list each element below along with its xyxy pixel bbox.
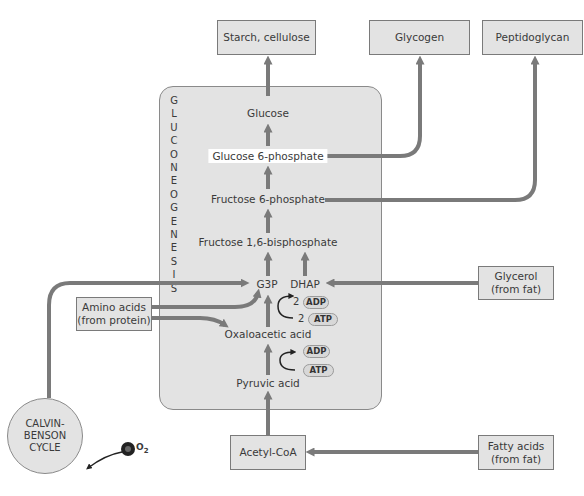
acetyl-coa-label: Acetyl-CoA (239, 446, 296, 459)
arrow-layer (0, 0, 584, 496)
peptidoglycan-label: Peptidoglycan (496, 31, 570, 44)
co2-molecule-icon (121, 442, 135, 456)
fatty-acids-label: Fatty acids (488, 440, 545, 453)
glucose-label: Glucose (247, 107, 289, 119)
amino-acids-sublabel: (from protein) (77, 314, 150, 327)
glycogen-box: Glycogen (369, 20, 470, 55)
adp-pill-lower: ADP (303, 345, 330, 358)
starch-cellulose-box: Starch, cellulose (217, 20, 316, 55)
calvin-benson-cycle: CALVIN- BENSON CYCLE (7, 398, 83, 474)
glucose-6-phosphate-label: Glucose 6-phosphate (208, 149, 327, 163)
fatty-acids-box: Fatty acids (from fat) (478, 435, 554, 470)
oxaloacetic-acid-label: Oxaloacetic acid (225, 328, 312, 340)
dhap-label: DHAP (290, 278, 320, 290)
amino-acids-box: Amino acids (from protein) (76, 297, 152, 331)
atp-pill-upper: ATP (308, 313, 338, 326)
co2-label: O2 (136, 442, 149, 455)
amino-acids-label: Amino acids (77, 301, 150, 314)
g3p-label: G3P (256, 278, 277, 290)
gluconeogenesis-diagram: G L U C O N E O G E N E S I S (0, 0, 584, 496)
glycerol-sublabel: (from fat) (491, 283, 541, 296)
glycogen-label: Glycogen (395, 31, 444, 44)
starch-label: Starch, cellulose (223, 31, 309, 44)
peptidoglycan-box: Peptidoglycan (482, 20, 583, 55)
co2-subscript: 2 (144, 447, 149, 455)
pyruvic-acid-label: Pyruvic acid (236, 377, 300, 389)
co2-o: O (136, 442, 144, 452)
calvin-line-2: BENSON (24, 430, 66, 442)
fructose-bisphosphate-label: Fructose 1,6-bisphosphate (199, 236, 338, 248)
calvin-line-1: CALVIN- (24, 418, 66, 430)
acetyl-coa-box: Acetyl-CoA (230, 435, 306, 470)
adp-pill-upper: ADP (303, 296, 329, 309)
glycerol-label: Glycerol (491, 270, 541, 283)
glycerol-box: Glycerol (from fat) (478, 266, 554, 300)
calvin-line-3: CYCLE (24, 442, 66, 454)
fatty-acids-sublabel: (from fat) (488, 453, 545, 466)
atp-coefficient: 2 (298, 313, 304, 324)
fructose-6-phosphate-label: Fructose 6-phosphate (211, 193, 325, 205)
adp-coefficient: 2 (293, 296, 299, 307)
atp-pill-lower: ATP (303, 364, 334, 377)
